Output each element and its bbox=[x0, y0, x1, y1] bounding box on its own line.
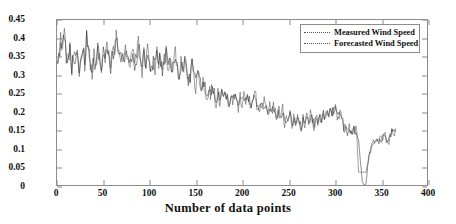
y-tick-mark-right bbox=[422, 168, 427, 169]
y-tick-label: 0 bbox=[20, 181, 25, 191]
x-tick-mark bbox=[382, 180, 383, 185]
y-tick-label: 0.4 bbox=[13, 33, 25, 43]
legend-item-forecasted: Forecasted Wind Speed bbox=[304, 38, 416, 49]
legend-label-forecasted: Forecasted Wind Speed bbox=[334, 38, 418, 49]
y-tick-mark bbox=[57, 38, 62, 39]
x-tick-label: 50 bbox=[98, 188, 108, 198]
y-tick-mark-right bbox=[422, 131, 427, 132]
x-tick-mark-top bbox=[429, 20, 430, 25]
x-tick-label: 350 bbox=[374, 188, 388, 198]
y-tick-mark-right bbox=[422, 149, 427, 150]
x-tick-label: 0 bbox=[54, 188, 59, 198]
y-tick-mark-right bbox=[422, 38, 427, 39]
y-tick-mark-right bbox=[422, 57, 427, 58]
y-tick-label: 0.05 bbox=[8, 162, 25, 172]
x-tick-label: 400 bbox=[421, 188, 435, 198]
legend-line-sample-forecasted bbox=[304, 43, 330, 45]
y-tick-label: 0.25 bbox=[8, 88, 25, 98]
x-tick-mark-top bbox=[103, 20, 104, 25]
series-line-forecasted bbox=[57, 30, 396, 185]
y-tick-label: 0.3 bbox=[13, 70, 25, 80]
legend-label-measured: Measured Wind Speed bbox=[334, 27, 415, 38]
x-tick-mark bbox=[196, 180, 197, 185]
y-tick-mark bbox=[57, 20, 62, 21]
x-tick-mark bbox=[103, 180, 104, 185]
y-tick-label: 0.15 bbox=[8, 125, 25, 135]
x-tick-mark bbox=[57, 180, 58, 185]
y-tick-mark-right bbox=[422, 20, 427, 21]
y-tick-mark-right bbox=[422, 94, 427, 95]
y-tick-mark-right bbox=[422, 75, 427, 76]
x-tick-mark bbox=[289, 180, 290, 185]
x-tick-mark bbox=[336, 180, 337, 185]
y-tick-label: 0.2 bbox=[13, 107, 25, 117]
x-tick-mark bbox=[243, 180, 244, 185]
y-tick-mark bbox=[57, 112, 62, 113]
x-tick-label: 150 bbox=[188, 188, 202, 198]
y-tick-mark bbox=[57, 149, 62, 150]
x-tick-label: 300 bbox=[328, 188, 342, 198]
legend-item-measured: Measured Wind Speed bbox=[304, 27, 416, 38]
x-axis-title: Number of data points bbox=[0, 201, 456, 216]
x-tick-label: 250 bbox=[281, 188, 295, 198]
legend-line-sample-measured bbox=[304, 32, 330, 34]
x-tick-mark bbox=[429, 180, 430, 185]
x-tick-label: 100 bbox=[142, 188, 156, 198]
chart-legend: Measured Wind Speed Forecasted Wind Spee… bbox=[300, 24, 420, 53]
y-tick-mark bbox=[57, 168, 62, 169]
y-tick-label: 0.1 bbox=[13, 144, 25, 154]
x-tick-mark-top bbox=[289, 20, 290, 25]
y-tick-mark bbox=[57, 57, 62, 58]
x-tick-mark-top bbox=[150, 20, 151, 25]
x-tick-label: 200 bbox=[235, 188, 249, 198]
y-tick-mark bbox=[57, 75, 62, 76]
y-tick-mark-right bbox=[422, 112, 427, 113]
y-tick-mark bbox=[57, 131, 62, 132]
y-tick-mark bbox=[57, 94, 62, 95]
wind-speed-figure: Wind Speed Measured Wind Speed Forecaste… bbox=[0, 0, 456, 224]
x-tick-mark-top bbox=[243, 20, 244, 25]
y-tick-label: 0.45 bbox=[8, 14, 25, 24]
x-tick-mark bbox=[150, 180, 151, 185]
y-tick-label: 0.35 bbox=[8, 51, 25, 61]
x-tick-mark-top bbox=[196, 20, 197, 25]
x-tick-mark-top bbox=[57, 20, 58, 25]
